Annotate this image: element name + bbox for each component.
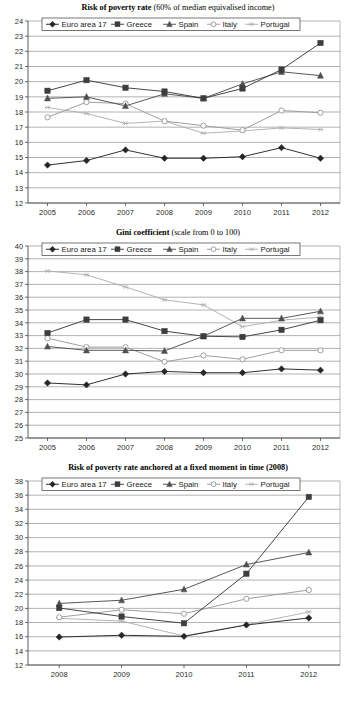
data-point-greece xyxy=(306,494,311,499)
data-point-greece xyxy=(201,334,206,339)
y-axis-tick-label: 16 xyxy=(15,138,23,147)
x-axis-tick-label: 2006 xyxy=(78,208,95,217)
data-point-italy xyxy=(162,119,167,124)
chart-2-svg: 2526272829303132333435363738394020052006… xyxy=(0,238,356,460)
legend-label-spain: Spain xyxy=(179,20,199,29)
chart-legend: Euro area 17GreeceSpainItalyPortugal xyxy=(42,478,300,491)
x-axis-tick-label: 2010 xyxy=(176,670,193,679)
y-axis-tick-label: 40 xyxy=(15,242,23,251)
chart-block-3: Risk of poverty rate anchored at a fixed… xyxy=(0,460,356,687)
legend-label-italy: Italy xyxy=(223,480,237,489)
legend-marker-italy xyxy=(211,482,216,487)
x-axis-tick-label: 2009 xyxy=(195,443,212,452)
y-axis-tick-label: 19 xyxy=(15,93,23,102)
data-point-italy xyxy=(201,123,206,128)
y-axis-tick-label: 25 xyxy=(15,434,23,443)
y-axis-tick-label: 26 xyxy=(15,421,23,430)
data-point-greece xyxy=(123,317,128,322)
data-point-italy xyxy=(45,336,50,341)
y-axis-tick-label: 18 xyxy=(15,618,23,627)
poverty-statistics-page: Risk of poverty rate (60% of median equi… xyxy=(0,0,356,701)
y-axis-tick-label: 36 xyxy=(15,491,23,500)
data-point-italy xyxy=(279,348,284,353)
data-point-italy xyxy=(45,115,50,120)
data-point-italy xyxy=(240,128,245,133)
x-axis-tick-label: 2005 xyxy=(39,208,56,217)
data-point-italy xyxy=(57,615,62,620)
legend-label-italy: Italy xyxy=(223,20,237,29)
y-axis-tick-label: 23 xyxy=(15,32,23,41)
legend-marker-italy xyxy=(211,22,216,27)
chart-1-svg: 1213141516171819202122232420052006200720… xyxy=(0,13,356,225)
y-axis-tick-label: 39 xyxy=(15,255,23,264)
legend-label-portugal: Portugal xyxy=(261,245,290,254)
legend-marker-italy xyxy=(211,247,216,252)
y-axis-tick-label: 31 xyxy=(15,357,23,366)
data-point-italy xyxy=(181,611,186,616)
x-axis-tick-label: 2012 xyxy=(312,443,329,452)
legend-marker-greece xyxy=(115,22,120,27)
y-axis-tick-label: 15 xyxy=(15,153,23,162)
y-axis-tick-label: 12 xyxy=(15,661,23,670)
legend-label-spain: Spain xyxy=(179,245,199,254)
data-point-greece xyxy=(119,614,124,619)
data-point-greece xyxy=(318,40,323,45)
y-axis-tick-label: 20 xyxy=(15,604,23,613)
data-point-greece xyxy=(162,328,167,333)
data-point-greece xyxy=(240,334,245,339)
y-axis-tick-label: 35 xyxy=(15,306,23,315)
chart-legend: Euro area 17GreeceSpainItalyPortugal xyxy=(42,18,300,31)
y-axis-tick-label: 30 xyxy=(15,370,23,379)
legend-marker-greece xyxy=(115,482,120,487)
x-axis-tick-label: 2006 xyxy=(78,443,95,452)
legend-label-greece: Greece xyxy=(127,480,153,489)
x-axis-tick-label: 2011 xyxy=(273,443,289,452)
data-point-greece xyxy=(240,86,245,91)
data-point-greece xyxy=(123,85,128,90)
chart-block-1: Risk of poverty rate (60% of median equi… xyxy=(0,0,356,225)
y-axis-tick-label: 16 xyxy=(15,632,23,641)
chart-3-svg: 1214161820222426283032343638200820092010… xyxy=(0,473,356,687)
y-axis-tick-label: 29 xyxy=(15,383,23,392)
chart-title-2-bold: Gini coefficient xyxy=(116,228,169,237)
y-axis-tick-label: 28 xyxy=(15,547,23,556)
x-axis-tick-label: 2009 xyxy=(195,208,212,217)
y-axis-tick-label: 22 xyxy=(15,590,23,599)
x-axis-tick-label: 2008 xyxy=(51,670,68,679)
legend-label-euro: Euro area 17 xyxy=(62,480,107,489)
legend-label-euro: Euro area 17 xyxy=(62,245,107,254)
x-axis-tick-label: 2012 xyxy=(300,670,317,679)
chart-title-3: Risk of poverty rate anchored at a fixed… xyxy=(0,460,356,473)
data-point-greece xyxy=(244,571,249,576)
y-axis-tick-label: 38 xyxy=(15,267,23,276)
x-axis-tick-label: 2007 xyxy=(117,208,134,217)
y-axis-tick-label: 36 xyxy=(15,293,23,302)
x-axis-tick-label: 2010 xyxy=(234,208,251,217)
data-point-italy xyxy=(306,587,311,592)
chart-title-2: Gini coefficient (scale from 0 to 100) xyxy=(0,225,356,238)
y-axis-tick-label: 13 xyxy=(15,184,23,193)
data-point-greece xyxy=(279,327,284,332)
x-axis-tick-label: 2007 xyxy=(117,443,134,452)
y-axis-tick-label: 26 xyxy=(15,562,23,571)
chart-title-3-bold: Risk of poverty rate anchored at a fixed… xyxy=(68,463,288,472)
chart-title-2-regular: (scale from 0 to 100) xyxy=(169,228,240,237)
x-axis-tick-label: 2005 xyxy=(39,443,56,452)
legend-label-portugal: Portugal xyxy=(261,20,290,29)
data-point-greece xyxy=(162,89,167,94)
y-axis-tick-label: 30 xyxy=(15,533,23,542)
data-point-italy xyxy=(318,110,323,115)
y-axis-tick-label: 22 xyxy=(15,47,23,56)
x-axis-tick-label: 2011 xyxy=(238,670,254,679)
y-axis-tick-label: 14 xyxy=(15,647,23,656)
data-point-greece xyxy=(201,96,206,101)
y-axis-tick-label: 27 xyxy=(15,408,23,417)
y-axis-tick-label: 33 xyxy=(15,331,23,340)
y-axis-tick-label: 21 xyxy=(15,62,23,71)
legend-marker-greece xyxy=(115,247,120,252)
x-axis-tick-label: 2008 xyxy=(156,208,173,217)
y-axis-tick-label: 14 xyxy=(15,168,23,177)
data-point-greece xyxy=(57,605,62,610)
y-axis-tick-label: 20 xyxy=(15,77,23,86)
y-axis-tick-label: 18 xyxy=(15,108,23,117)
